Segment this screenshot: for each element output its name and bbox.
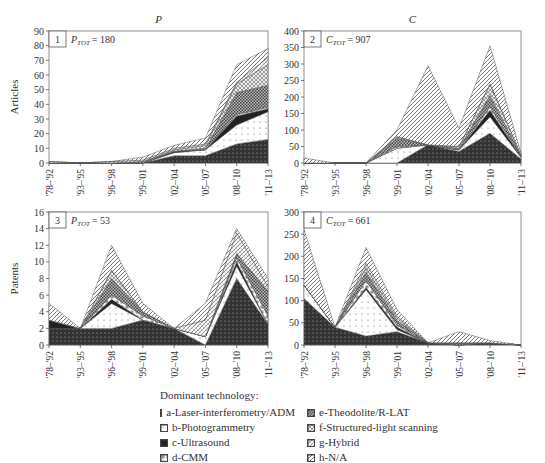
panel-number: 3: [55, 215, 60, 226]
x-tick-label: '11–'13: [517, 169, 527, 196]
panel-number: 2: [310, 34, 315, 45]
legend: Dominant technology: a-Laser-interferome…: [160, 388, 467, 463]
y-axis-label: Articles: [8, 80, 20, 115]
y-tick-label: 90: [34, 26, 44, 37]
y-tick-label: 150: [284, 273, 299, 284]
y-tick-label: 250: [284, 229, 299, 240]
panel-1: 0102030405060708090'78–'92'93–'95'96–'98…: [8, 13, 274, 196]
panel-total-annotation: CTOT= 907: [326, 34, 371, 47]
y-tick-label: 20: [34, 128, 44, 139]
y-tick-label: 8: [39, 273, 44, 284]
x-tick-label: '93–'95: [331, 169, 341, 196]
swatch-icon-g: [307, 439, 315, 447]
y-tick-label: 40: [34, 99, 44, 110]
y-tick-label: 50: [34, 84, 44, 95]
x-tick-label: '05–'07: [201, 169, 211, 196]
y-tick-label: 250: [284, 75, 299, 86]
x-tick-label: '11–'13: [517, 351, 527, 378]
swatch-icon-e: [307, 409, 315, 417]
y-tick-label: 80: [34, 40, 44, 51]
y-tick-label: 300: [284, 207, 299, 218]
x-tick-label: '93–'95: [76, 351, 86, 378]
panel-2: 050100150200250300350400'78–'92'93–'95'9…: [284, 13, 527, 196]
x-tick-label: '96–'98: [107, 169, 117, 196]
x-tick-label: '08–'10: [486, 169, 496, 196]
y-tick-label: 200: [284, 92, 299, 103]
y-tick-label: 30: [34, 114, 44, 125]
x-tick-label: '08–'10: [232, 351, 242, 378]
panel-number: 4: [310, 215, 315, 226]
swatch-icon-f: [307, 424, 315, 432]
swatch-icon-b: [160, 424, 168, 432]
x-tick-label: '78–'92: [300, 169, 310, 196]
legend-item-h: h-N/A: [307, 450, 467, 463]
x-tick-label: '11–'13: [264, 169, 274, 196]
panel-3: 0246810121416'78–'92'93–'95'96–'98'99–'0…: [8, 207, 274, 379]
x-tick-label: '02–'04: [170, 169, 180, 196]
y-tick-label: 50: [289, 317, 299, 328]
y-tick-label: 4: [39, 306, 44, 317]
y-tick-label: 10: [34, 256, 44, 267]
y-tick-label: 300: [284, 59, 299, 70]
x-tick-label: '02–'04: [424, 169, 434, 196]
x-tick-label: '99–'01: [393, 169, 403, 196]
y-tick-label: 200: [284, 251, 299, 262]
legend-item-e: e-Theodolite/R-LAT: [307, 405, 467, 420]
x-tick-label: '78–'92: [300, 351, 310, 378]
panel-total-annotation: PTOT= 180: [70, 34, 115, 47]
x-tick-label: '96–'98: [362, 351, 372, 378]
y-tick-label: 14: [34, 223, 44, 234]
swatch-icon-c: [160, 439, 168, 447]
y-tick-label: 70: [34, 55, 44, 66]
y-tick-label: 60: [34, 70, 44, 81]
panel-4: 050100150200250300'78–'92'93–'95'96–'98'…: [284, 207, 527, 379]
panel-number: 1: [55, 34, 60, 45]
y-tick-label: 350: [284, 42, 299, 53]
swatch-icon-h: [307, 454, 315, 462]
y-tick-label: 12: [34, 240, 44, 251]
y-tick-label: 150: [284, 108, 299, 119]
legend-item-a: a-Laser-interferometry/ADM: [160, 405, 295, 420]
panel-total-annotation: PTOT= 53: [70, 215, 110, 228]
x-tick-label: '93–'95: [331, 351, 341, 378]
y-tick-label: 0: [294, 158, 299, 169]
y-tick-label: 0: [39, 158, 44, 169]
y-tick-label: 50: [289, 141, 299, 152]
x-tick-label: '02–'04: [170, 351, 180, 378]
x-tick-label: '05–'07: [201, 351, 211, 378]
x-tick-label: '11–'13: [264, 351, 274, 378]
x-tick-label: '08–'10: [232, 169, 242, 196]
y-tick-label: 6: [39, 290, 44, 301]
x-tick-label: '99–'01: [138, 351, 148, 378]
x-tick-label: '93–'95: [76, 169, 86, 196]
area-series-a: [49, 279, 268, 346]
x-tick-label: '78–'92: [45, 351, 55, 378]
y-tick-label: 10: [34, 143, 44, 154]
legend-title: Dominant technology:: [160, 388, 467, 403]
panel-title: C: [409, 13, 417, 25]
legend-item-d: d-CMM: [160, 450, 295, 463]
area-series-a: [304, 298, 521, 345]
x-tick-label: '99–'01: [138, 169, 148, 196]
legend-item-f: f-Structured-light scanning: [307, 420, 467, 435]
y-tick-label: 100: [284, 125, 299, 136]
chart-grid: 0102030405060708090'78–'92'93–'95'96–'98…: [0, 0, 545, 380]
y-axis-label: Patents: [8, 263, 20, 295]
y-tick-label: 16: [34, 207, 44, 218]
x-tick-label: '99–'01: [393, 351, 403, 378]
x-tick-label: '08–'10: [486, 351, 496, 378]
y-tick-label: 0: [294, 340, 299, 351]
x-tick-label: '02–'04: [424, 351, 434, 378]
y-tick-label: 400: [284, 26, 299, 37]
y-tick-label: 2: [39, 323, 44, 334]
legend-item-c: c-Ultrasound: [160, 435, 295, 450]
swatch-icon-d: [160, 454, 168, 462]
panel-title: P: [154, 13, 162, 25]
legend-item-b: b-Photogrammetry: [160, 420, 295, 435]
panel-total-annotation: CTOT= 661: [326, 215, 371, 228]
x-tick-label: '78–'92: [45, 169, 55, 196]
x-tick-label: '05–'07: [455, 169, 465, 196]
legend-item-g: g-Hybrid: [307, 435, 467, 450]
x-tick-label: '96–'98: [107, 351, 117, 378]
y-tick-label: 0: [39, 340, 44, 351]
